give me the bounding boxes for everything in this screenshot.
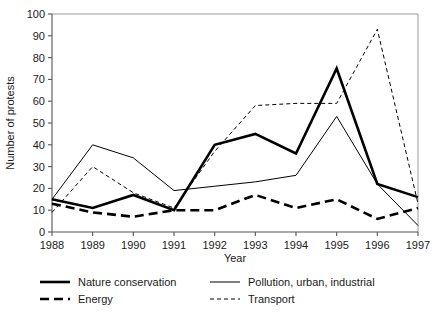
x-tick-label: 1992 [202, 239, 226, 251]
legend-label-transport: Transport [248, 293, 295, 305]
x-axis-title: Year [224, 252, 247, 264]
protests-line-chart: 0102030405060708090100 Number of protest… [0, 0, 434, 313]
y-axis-title: Number of protests [4, 76, 16, 170]
x-tick-label: 1988 [40, 239, 64, 251]
x-tick-label: 1991 [162, 239, 186, 251]
y-tick-label: 40 [33, 139, 45, 151]
chart-figure: 0102030405060708090100 Number of protest… [0, 0, 434, 313]
y-tick-label: 10 [33, 204, 45, 216]
legend-label-nature-conservation: Nature conservation [78, 276, 176, 288]
series-line-nature-conservation [52, 69, 418, 211]
legend-label-energy: Energy [78, 293, 113, 305]
x-tick-label: 1995 [324, 239, 348, 251]
legend-label-pollution-urban-industrial: Pollution, urban, industrial [248, 276, 375, 288]
x-tick-label: 1996 [365, 239, 389, 251]
x-tick-label: 1989 [80, 239, 104, 251]
series-line-transport [52, 29, 418, 212]
chart-legend: Nature conservationPollution, urban, ind… [40, 276, 375, 305]
x-tick-label: 1997 [406, 239, 430, 251]
y-tick-label: 90 [33, 30, 45, 42]
x-tick-group: 1988198919901991199219931994199519961997 [40, 232, 430, 251]
x-tick-label: 1990 [121, 239, 145, 251]
y-tick-label: 0 [39, 226, 45, 238]
plot-frame [52, 14, 418, 232]
series-line-energy [52, 195, 418, 219]
x-tick-label: 1993 [243, 239, 267, 251]
y-tick-group: 0102030405060708090100 [27, 8, 52, 238]
x-tick-label: 1994 [284, 239, 308, 251]
y-tick-label: 30 [33, 161, 45, 173]
y-axis: 0102030405060708090100 Number of protest… [4, 8, 52, 238]
series-group [52, 29, 418, 225]
x-axis: 1988198919901991199219931994199519961997… [40, 232, 430, 264]
y-tick-label: 70 [33, 73, 45, 85]
y-tick-label: 50 [33, 117, 45, 129]
y-tick-label: 80 [33, 52, 45, 64]
y-tick-label: 60 [33, 95, 45, 107]
y-tick-label: 20 [33, 182, 45, 194]
series-line-pollution-urban-industrial [52, 116, 418, 225]
y-tick-label: 100 [27, 8, 45, 20]
